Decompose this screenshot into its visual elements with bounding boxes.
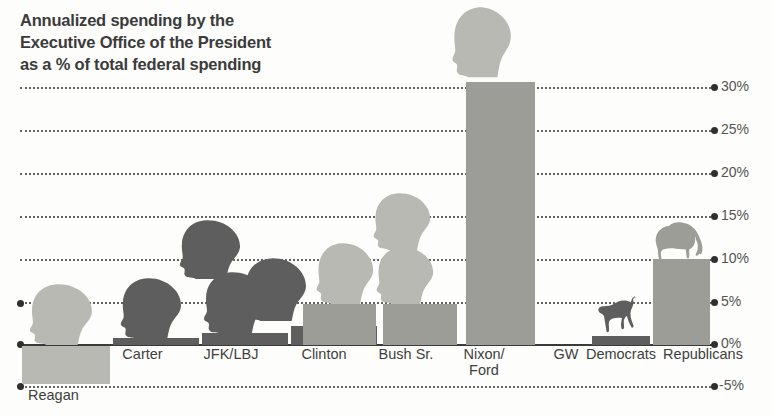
head-silhouette-jfk <box>176 219 242 279</box>
head-silhouette-bush-sr <box>313 242 375 304</box>
tick-label-neg5: -5% <box>719 377 744 393</box>
cat-label-jfk-lbj: JFK/LBJ <box>176 347 286 363</box>
tick-dot-30 <box>711 84 718 91</box>
plot-area: 30% 25% 20% 15% 10% 5% 0% -5% <box>0 0 772 416</box>
bar-carter <box>113 338 199 345</box>
infographic-chart: Annualized spending by the Executive Off… <box>0 0 772 416</box>
tick-dot-10 <box>711 256 718 263</box>
head-silhouette-ford <box>373 246 435 304</box>
tick-label-15: 15% <box>721 207 749 223</box>
elephant-icon <box>650 222 712 262</box>
tick-dot-neg5 <box>711 383 718 390</box>
bar-nixon-ford <box>383 304 457 345</box>
bar-jfk-lbj <box>202 333 288 345</box>
tick-label-25: 25% <box>721 121 749 137</box>
head-silhouette-clinton <box>240 257 308 321</box>
bar-gw <box>466 82 535 345</box>
tick-dot-15 <box>711 213 718 220</box>
tick-label-5: 5% <box>721 293 741 309</box>
gridline-15 <box>20 216 715 218</box>
cat-label-republicans: Republicans <box>648 347 758 363</box>
head-silhouette-nixon <box>370 192 432 250</box>
gridline-30 <box>20 87 715 89</box>
cat-label-reagan: Reagan <box>10 388 148 404</box>
grid-dot-5 <box>17 300 24 307</box>
tick-label-30: 30% <box>721 78 749 94</box>
head-silhouette-reagan <box>26 283 94 345</box>
tick-label-10: 10% <box>721 250 749 266</box>
head-silhouette-carter <box>117 277 183 339</box>
tick-dot-5 <box>711 299 718 306</box>
tick-dot-25 <box>711 127 718 134</box>
tick-label-20: 20% <box>721 164 749 180</box>
bar-bush-sr <box>303 304 376 345</box>
head-silhouette-gw <box>450 6 514 82</box>
tick-dot-20 <box>711 170 718 177</box>
gridline-20 <box>20 173 715 175</box>
donkey-icon <box>592 296 650 338</box>
gridline-25 <box>20 130 715 132</box>
bar-republicans <box>653 259 710 345</box>
